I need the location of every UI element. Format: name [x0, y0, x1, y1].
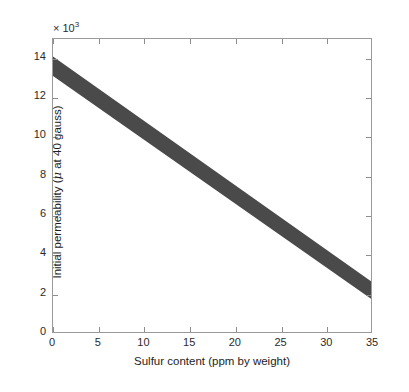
y-tick-right-14 — [366, 59, 371, 60]
permeability-band — [53, 57, 371, 299]
y-axis-tick-label-text: 0 — [40, 325, 46, 337]
y-axis-tick-label-text: 10 — [34, 128, 46, 140]
y-axis-tick-label-text: 8 — [40, 168, 46, 180]
chart-figure: × 103 05101520253035 02468101214 Sulfur … — [0, 0, 409, 392]
x-axis-title: Sulfur content (ppm by weight) — [52, 355, 372, 367]
y-tick-right-4 — [366, 255, 371, 256]
x-axis-tick-label-5: 5 — [95, 336, 101, 348]
x-tick-bottom-5 — [99, 327, 100, 332]
y-axis-title-mu-symbol: μ — [50, 172, 64, 179]
x-tick-bottom-20 — [236, 327, 237, 332]
x-tick-top-15 — [190, 39, 191, 44]
y-tick-right-6 — [366, 216, 371, 217]
y-tick-right-10 — [366, 137, 371, 138]
y-axis-tick-label-text: 14 — [34, 50, 46, 62]
y-axis-tick-label-text: 2 — [40, 286, 46, 298]
x-axis-tick-label-30: 30 — [320, 336, 332, 348]
y-axis-multiplier-label: × 103 — [53, 20, 79, 34]
x-tick-top-5 — [99, 39, 100, 44]
x-tick-bottom-15 — [190, 327, 191, 332]
x-tick-top-10 — [144, 39, 145, 44]
y-axis-title-suffix: at 40 gauss) — [51, 105, 63, 171]
y-tick-right-8 — [366, 177, 371, 178]
x-axis-tick-label-15: 15 — [183, 336, 195, 348]
y-axis-tick-label-text: 4 — [40, 246, 46, 258]
x-tick-bottom-30 — [327, 327, 328, 332]
x-tick-bottom-25 — [282, 327, 283, 332]
x-tick-top-20 — [236, 39, 237, 44]
y-tick-right-12 — [366, 98, 371, 99]
x-axis-tick-label-10: 10 — [137, 336, 149, 348]
x-tick-top-30 — [327, 39, 328, 44]
y-tick-right-2 — [366, 295, 371, 296]
x-axis-tick-label-20: 20 — [229, 336, 241, 348]
data-band-svg — [53, 39, 371, 332]
y-axis-tick-label-text: 6 — [40, 207, 46, 219]
plot-area — [52, 38, 372, 333]
y-axis-title: Initial permeability (μ at 40 gauss) — [50, 42, 64, 342]
y-axis-tick-label-text: 12 — [34, 89, 46, 101]
x-tick-top-25 — [282, 39, 283, 44]
y-axis-title-prefix: Initial permeability ( — [51, 179, 63, 278]
y-axis-multiplier-exponent: 3 — [75, 20, 79, 29]
y-axis-multiplier-base: × 10 — [53, 22, 75, 34]
x-tick-bottom-10 — [144, 327, 145, 332]
x-axis-tick-label-35: 35 — [366, 336, 378, 348]
x-axis-tick-label-25: 25 — [274, 336, 286, 348]
